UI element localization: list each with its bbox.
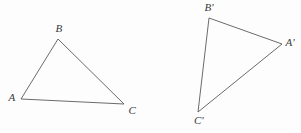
vertex-label-b: B: [56, 23, 63, 34]
vertex-label-b-prime: B': [205, 2, 214, 13]
vertex-label-a-prime: A': [286, 37, 295, 48]
vertex-label-c: C: [129, 105, 136, 116]
vertex-label-a: A: [9, 92, 16, 103]
vertex-label-c-prime: C': [194, 115, 204, 126]
triangle-abc: [21, 39, 124, 104]
triangles-canvas: [0, 0, 301, 133]
triangle-a-prime-b-prime-c-prime: [198, 18, 282, 112]
geometry-figure: A B C A' B' C': [0, 0, 301, 133]
